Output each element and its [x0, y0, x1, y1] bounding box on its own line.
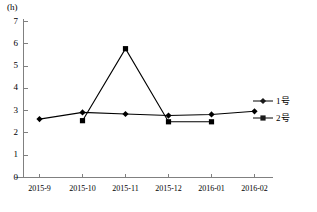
axis-lines [15, 19, 273, 178]
y-axis-tick-label: 2 [4, 128, 18, 137]
legend-item[interactable]: 2号 [252, 109, 314, 126]
x-axis-tick-label: 2015-9 [28, 184, 51, 193]
chart-legend: 1号2号 [252, 92, 314, 126]
square-marker [260, 115, 265, 120]
line-chart: (h) 01234567 2015-92015-102015-112015-12… [0, 0, 317, 212]
y-axis-tick-label: 3 [4, 106, 18, 115]
square-marker [80, 118, 85, 123]
x-axis-tick-label: 2015-12 [155, 184, 182, 193]
data-series [36, 108, 257, 122]
data-series-layer [36, 46, 257, 124]
y-axis-tick-label: 0 [4, 173, 18, 182]
legend-symbol [252, 95, 274, 107]
x-axis-tick-label: 2016-01 [198, 184, 225, 193]
square-marker [123, 46, 128, 51]
y-axis-tick-label: 5 [4, 61, 18, 70]
legend-label: 2号 [274, 113, 290, 123]
legend-label: 1号 [274, 96, 290, 106]
y-axis-tick-label: 7 [4, 17, 18, 26]
x-axis-tick-label: 2015-10 [69, 184, 96, 193]
legend-item[interactable]: 1号 [252, 92, 314, 109]
square-marker [166, 119, 171, 124]
x-axis-ticks [40, 174, 255, 178]
diamond-marker [36, 116, 42, 122]
diamond-marker [122, 111, 128, 117]
legend-symbol [252, 112, 274, 124]
series-line [40, 111, 255, 119]
series-line [83, 49, 212, 122]
y-axis-ticks [24, 22, 28, 178]
y-axis-tick-label: 4 [4, 83, 18, 92]
x-axis-tick-label: 2015-11 [112, 184, 138, 193]
diamond-marker [79, 109, 85, 115]
y-axis-tick-label: 1 [4, 150, 18, 159]
diamond-marker [208, 111, 214, 117]
diamond-marker [260, 97, 266, 103]
y-axis-tick-label: 6 [4, 39, 18, 48]
square-marker [209, 119, 214, 124]
x-axis-tick-label: 2016-02 [241, 184, 268, 193]
